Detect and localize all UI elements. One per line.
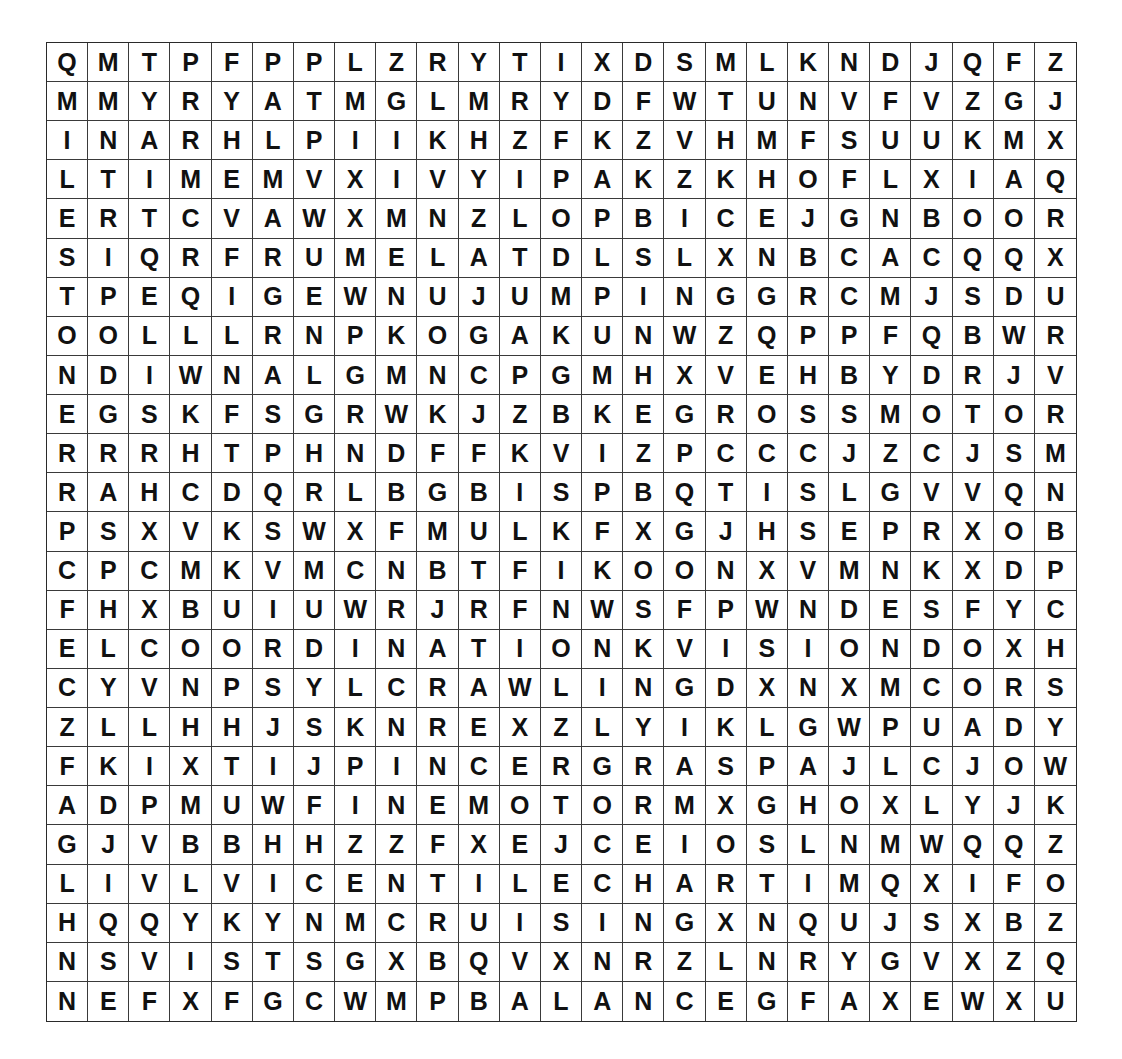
grid-cell[interactable]: Q (953, 43, 994, 82)
grid-cell[interactable]: N (417, 747, 458, 786)
grid-cell[interactable]: Q (747, 317, 788, 356)
grid-cell[interactable]: C (47, 669, 88, 708)
grid-cell[interactable]: M (170, 786, 211, 825)
grid-cell[interactable]: Q (788, 904, 829, 943)
grid-cell[interactable]: S (294, 708, 335, 747)
grid-cell[interactable]: J (459, 395, 500, 434)
grid-cell[interactable]: M (47, 82, 88, 121)
grid-cell[interactable]: Q (994, 239, 1035, 278)
grid-cell[interactable]: A (870, 239, 911, 278)
grid-cell[interactable]: I (129, 356, 170, 395)
grid-cell[interactable]: I (788, 630, 829, 669)
grid-cell[interactable]: R (417, 43, 458, 82)
grid-cell[interactable]: C (706, 199, 747, 238)
grid-cell[interactable]: C (582, 865, 623, 904)
grid-cell[interactable]: M (335, 904, 376, 943)
grid-cell[interactable]: Z (953, 82, 994, 121)
grid-cell[interactable]: C (664, 982, 705, 1021)
grid-cell[interactable]: J (953, 434, 994, 473)
grid-cell[interactable]: S (88, 512, 129, 551)
grid-cell[interactable]: G (870, 473, 911, 512)
grid-cell[interactable]: V (500, 943, 541, 982)
grid-cell[interactable]: M (706, 43, 747, 82)
grid-cell[interactable]: D (706, 669, 747, 708)
grid-cell[interactable]: E (747, 356, 788, 395)
grid-cell[interactable]: S (706, 747, 747, 786)
grid-cell[interactable]: W (994, 317, 1035, 356)
grid-cell[interactable]: X (664, 356, 705, 395)
grid-cell[interactable]: A (253, 199, 294, 238)
grid-cell[interactable]: O (747, 395, 788, 434)
grid-cell[interactable]: Y (1035, 708, 1076, 747)
grid-cell[interactable]: I (623, 278, 664, 317)
grid-cell[interactable]: R (335, 395, 376, 434)
grid-cell[interactable]: Y (212, 82, 253, 121)
grid-cell[interactable]: R (376, 591, 417, 630)
grid-cell[interactable]: L (335, 473, 376, 512)
grid-cell[interactable]: X (335, 512, 376, 551)
grid-cell[interactable]: Q (911, 317, 952, 356)
grid-cell[interactable]: M (870, 669, 911, 708)
grid-cell[interactable]: X (953, 552, 994, 591)
grid-cell[interactable]: Z (623, 434, 664, 473)
grid-cell[interactable]: W (294, 199, 335, 238)
grid-cell[interactable]: N (829, 825, 870, 864)
grid-cell[interactable]: V (212, 199, 253, 238)
grid-cell[interactable]: D (376, 434, 417, 473)
grid-cell[interactable]: I (788, 865, 829, 904)
grid-cell[interactable]: T (417, 865, 458, 904)
grid-cell[interactable]: T (541, 786, 582, 825)
grid-cell[interactable]: O (829, 630, 870, 669)
grid-cell[interactable]: C (376, 669, 417, 708)
grid-cell[interactable]: C (829, 278, 870, 317)
grid-cell[interactable]: V (294, 160, 335, 199)
grid-cell[interactable]: O (994, 747, 1035, 786)
grid-cell[interactable]: R (294, 473, 335, 512)
grid-cell[interactable]: X (170, 982, 211, 1021)
grid-cell[interactable]: C (1035, 591, 1076, 630)
grid-cell[interactable]: U (1035, 278, 1076, 317)
grid-cell[interactable]: H (623, 865, 664, 904)
grid-cell[interactable]: Y (170, 904, 211, 943)
grid-cell[interactable]: F (870, 317, 911, 356)
grid-cell[interactable]: V (212, 865, 253, 904)
grid-cell[interactable]: Z (1035, 904, 1076, 943)
grid-cell[interactable]: L (664, 239, 705, 278)
grid-cell[interactable]: W (294, 512, 335, 551)
grid-cell[interactable]: E (47, 199, 88, 238)
grid-cell[interactable]: P (335, 317, 376, 356)
grid-cell[interactable]: K (582, 552, 623, 591)
grid-cell[interactable]: D (911, 356, 952, 395)
grid-cell[interactable]: O (788, 160, 829, 199)
grid-cell[interactable]: E (623, 395, 664, 434)
grid-cell[interactable]: D (88, 356, 129, 395)
grid-cell[interactable]: R (541, 747, 582, 786)
grid-cell[interactable]: F (47, 591, 88, 630)
grid-cell[interactable]: N (870, 199, 911, 238)
grid-cell[interactable]: K (335, 708, 376, 747)
grid-cell[interactable]: E (541, 865, 582, 904)
grid-cell[interactable]: K (582, 121, 623, 160)
grid-cell[interactable]: L (582, 708, 623, 747)
grid-cell[interactable]: C (911, 747, 952, 786)
grid-cell[interactable]: H (212, 121, 253, 160)
grid-cell[interactable]: D (623, 43, 664, 82)
grid-cell[interactable]: B (170, 825, 211, 864)
grid-cell[interactable]: Q (129, 239, 170, 278)
grid-cell[interactable]: W (829, 708, 870, 747)
grid-cell[interactable]: A (664, 747, 705, 786)
grid-cell[interactable]: G (664, 904, 705, 943)
grid-cell[interactable]: V (788, 552, 829, 591)
grid-cell[interactable]: M (1035, 434, 1076, 473)
grid-cell[interactable]: O (953, 669, 994, 708)
grid-cell[interactable]: C (829, 239, 870, 278)
grid-cell[interactable]: F (212, 239, 253, 278)
grid-cell[interactable]: U (417, 278, 458, 317)
grid-cell[interactable]: A (829, 982, 870, 1021)
grid-cell[interactable]: M (170, 552, 211, 591)
grid-cell[interactable]: R (417, 904, 458, 943)
grid-cell[interactable]: C (170, 199, 211, 238)
grid-cell[interactable]: Z (376, 43, 417, 82)
grid-cell[interactable]: M (829, 552, 870, 591)
grid-cell[interactable]: Z (870, 434, 911, 473)
